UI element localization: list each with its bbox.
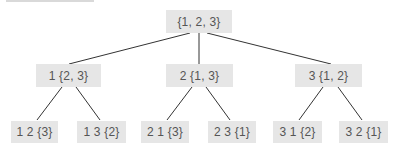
leaf-node-13: 1 3 {2} [77, 121, 126, 143]
root-node: {1, 2, 3} [166, 10, 232, 33]
leaf-node-12: 1 2 {3} [11, 121, 58, 143]
leaf-node-21: 2 1 {3} [141, 121, 189, 143]
edge-root-3 [207, 33, 331, 64]
edge-root-1 [69, 33, 190, 64]
edge-3-31 [299, 87, 323, 120]
edge-1-12 [37, 87, 62, 120]
level1-node-2: 2 {1, 3} [166, 64, 233, 87]
edge-1-13 [76, 87, 100, 120]
leaf-node-23: 2 3 {1} [208, 121, 256, 143]
leaf-node-32: 3 2 {1} [339, 121, 388, 143]
edge-2-21 [167, 87, 192, 120]
level1-node-3: 3 {1, 2} [295, 64, 362, 87]
leaf-node-31: 3 1 {2} [273, 121, 322, 143]
level1-node-1: 1 {2, 3} [36, 64, 101, 87]
edge-2-23 [206, 87, 230, 120]
edge-3-32 [338, 87, 362, 120]
